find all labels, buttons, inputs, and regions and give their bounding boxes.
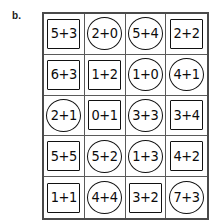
grid-cell[interactable]: 3+2: [126, 177, 167, 218]
circle-outline: 1+3: [128, 140, 163, 173]
addition-expression: 5+3: [51, 27, 77, 41]
addition-expression: 1+2: [92, 68, 118, 82]
square-outline: 3+4: [170, 100, 203, 130]
grid-cell[interactable]: 3+3: [126, 96, 167, 137]
circle-outline: 2+1: [46, 99, 81, 132]
addition-expression: 5+2: [92, 149, 118, 163]
square-outline: 2+2: [170, 19, 203, 49]
circle-outline: 5+2: [87, 140, 122, 173]
grid-cell[interactable]: 6+3: [44, 55, 85, 96]
grid-cell[interactable]: 1+0: [126, 55, 167, 96]
addition-expression: 3+4: [174, 108, 200, 122]
addition-expression: 0+1: [92, 108, 118, 122]
grid-cell[interactable]: 5+5: [44, 136, 85, 177]
addition-expression: 4+4: [92, 191, 118, 205]
grid-cell[interactable]: 2+0: [85, 14, 126, 55]
circle-outline: 2+0: [87, 17, 122, 50]
addition-expression: 6+3: [51, 68, 77, 82]
square-outline: 4+2: [170, 141, 203, 171]
grid-cell[interactable]: 1+3: [126, 136, 167, 177]
circle-outline: 4+4: [87, 181, 122, 214]
grid-cell[interactable]: 2+2: [166, 14, 207, 55]
addition-expression: 1+0: [132, 68, 158, 82]
addition-expression: 1+3: [132, 149, 158, 163]
grid-cell[interactable]: 4+4: [85, 177, 126, 218]
circle-outline: 3+3: [128, 99, 163, 132]
grid-cell[interactable]: 1+2: [85, 55, 126, 96]
worksheet-figure: b. 5+32+05+42+26+31+21+04+12+10+13+33+45…: [0, 0, 214, 223]
addition-expression: 5+4: [132, 27, 158, 41]
expression-grid: 5+32+05+42+26+31+21+04+12+10+13+33+45+55…: [42, 12, 209, 220]
grid-cell[interactable]: 7+3: [166, 177, 207, 218]
addition-expression: 2+2: [174, 27, 200, 41]
addition-expression: 2+1: [51, 108, 77, 122]
circle-outline: 4+1: [169, 58, 204, 91]
addition-expression: 5+5: [51, 149, 77, 163]
circle-outline: 5+4: [128, 17, 163, 50]
addition-expression: 3+3: [132, 108, 158, 122]
circle-outline: 1+0: [128, 58, 163, 91]
square-outline: 5+5: [47, 141, 80, 171]
addition-expression: 2+0: [92, 27, 118, 41]
grid-cell[interactable]: 3+4: [166, 96, 207, 137]
grid-cell[interactable]: 5+4: [126, 14, 167, 55]
addition-expression: 7+3: [174, 191, 200, 205]
grid-cell[interactable]: 5+3: [44, 14, 85, 55]
square-outline: 3+2: [129, 183, 162, 213]
addition-expression: 4+2: [174, 149, 200, 163]
grid-cell[interactable]: 4+2: [166, 136, 207, 177]
grid-cell[interactable]: 1+1: [44, 177, 85, 218]
square-outline: 6+3: [47, 60, 80, 90]
square-outline: 5+3: [47, 19, 80, 49]
square-outline: 0+1: [88, 100, 121, 130]
grid-cell[interactable]: 2+1: [44, 96, 85, 137]
square-outline: 1+1: [47, 183, 80, 213]
addition-expression: 3+2: [132, 191, 158, 205]
grid-cell[interactable]: 0+1: [85, 96, 126, 137]
square-outline: 1+2: [88, 60, 121, 90]
grid-cell[interactable]: 4+1: [166, 55, 207, 96]
addition-expression: 1+1: [51, 191, 77, 205]
circle-outline: 7+3: [169, 181, 204, 214]
grid-cell[interactable]: 5+2: [85, 136, 126, 177]
figure-label: b.: [12, 10, 21, 21]
addition-expression: 4+1: [174, 68, 200, 82]
